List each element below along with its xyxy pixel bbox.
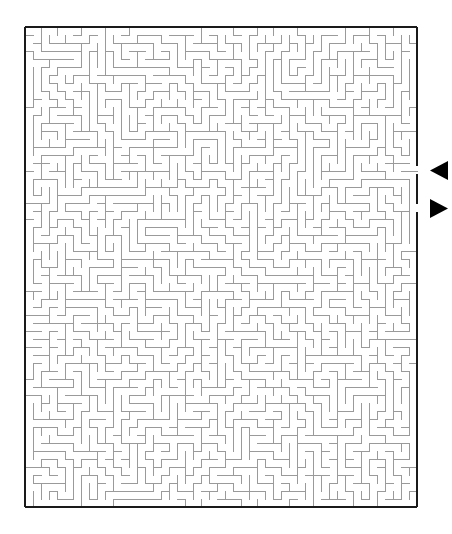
maze-figure: Maze Puzzle <box>0 0 452 534</box>
canvas-background <box>0 0 452 534</box>
maze-canvas[interactable] <box>0 0 452 534</box>
page-root: Maze Puzzle <box>0 0 452 534</box>
